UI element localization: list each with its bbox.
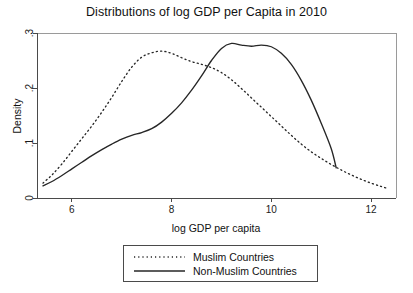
plot-frame — [37, 33, 396, 198]
x-axis-ticks: 681012 — [69, 198, 377, 215]
chart-series — [43, 43, 389, 188]
x-axis-title: log GDP per capita — [172, 222, 261, 234]
y-tick-label: 0 — [24, 195, 35, 201]
chart-figure: Distributions of log GDP per Capita in 2… — [0, 0, 413, 293]
series-line-non-muslim-countries — [43, 43, 336, 186]
plot-axes — [37, 33, 396, 198]
x-tick-label: 12 — [366, 204, 378, 215]
y-axis-ticks: 0.1.2.3 — [24, 28, 37, 200]
x-tick-label: 10 — [266, 204, 278, 215]
y-tick-label: .2 — [24, 83, 35, 92]
y-tick-label: .1 — [24, 138, 35, 147]
y-axis-title: Density — [11, 98, 23, 134]
y-tick-label: .3 — [24, 28, 35, 37]
x-tick-label: 8 — [169, 204, 175, 215]
legend-label-muslim-countries: Muslim Countries — [193, 251, 274, 263]
legend-label-non-muslim-countries: Non-Muslim Countries — [193, 265, 297, 277]
chart-plot-svg: 0.1.2.3 681012 Density log GDP per capit… — [0, 0, 413, 293]
x-tick-label: 6 — [69, 204, 75, 215]
chart-legend: Muslim Countries Non-Muslim Countries — [123, 245, 317, 281]
